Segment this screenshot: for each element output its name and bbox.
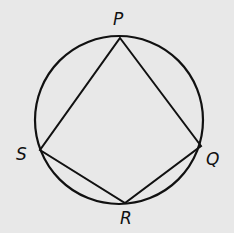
circle-quadrilateral-figure bbox=[0, 0, 234, 233]
vertex-label-p: P bbox=[113, 11, 123, 28]
vertex-label-r: R bbox=[120, 210, 132, 227]
diagram-canvas: P Q R S bbox=[0, 0, 234, 233]
vertex-label-s: S bbox=[16, 146, 27, 163]
quadrilateral-pqrs bbox=[40, 38, 201, 203]
vertex-label-q: Q bbox=[206, 151, 219, 168]
